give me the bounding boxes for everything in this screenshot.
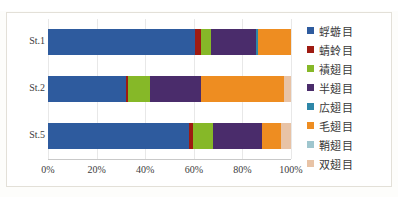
legend-item[interactable]: 双翅目	[307, 154, 387, 173]
bar-row[interactable]	[48, 123, 291, 149]
legend-label: 鞘翅目	[319, 137, 353, 153]
y-axis-label-st1: St.1	[9, 35, 45, 46]
legend-swatch-icon	[307, 27, 314, 34]
legend-swatch-icon	[307, 141, 314, 148]
bar-segment[interactable]	[284, 76, 291, 102]
x-tick-label-0: 0%	[28, 164, 68, 175]
x-axis-line	[48, 159, 291, 160]
bar-row[interactable]	[48, 29, 291, 55]
chart-screenshot: St.1St.2St.5 蜉蝣目蜻蛉目襀翅目半翅目広翅目毛翅目鞘翅目双翅目 0%…	[0, 0, 398, 197]
bar-segment[interactable]	[281, 123, 291, 149]
bar-segment[interactable]	[211, 29, 256, 55]
legend-label: 双翅目	[319, 156, 353, 172]
y-axis-label-st2: St.2	[9, 82, 45, 93]
legend-item[interactable]: 半翅目	[307, 78, 387, 97]
legend-item[interactable]: 鞘翅目	[307, 135, 387, 154]
legend-swatch-icon	[307, 122, 314, 129]
bar-segment[interactable]	[193, 123, 214, 149]
legend-swatch-icon	[307, 65, 314, 72]
bar-segment[interactable]	[48, 76, 126, 102]
legend-swatch-icon	[307, 84, 314, 91]
x-tick-label-100: 100%	[271, 164, 311, 175]
bar-segment[interactable]	[258, 29, 291, 55]
cut-off-text-strip	[0, 0, 398, 11]
x-tick-label-40: 40%	[125, 164, 165, 175]
bar-segment[interactable]	[213, 123, 262, 149]
bar-segment[interactable]	[48, 123, 189, 149]
legend-label: 広翅目	[319, 99, 353, 115]
legend-label: 蜻蛉目	[319, 42, 353, 58]
bar-row[interactable]	[48, 76, 291, 102]
chart-legend: 蜉蝣目蜻蛉目襀翅目半翅目広翅目毛翅目鞘翅目双翅目	[307, 21, 387, 173]
legend-item[interactable]: 毛翅目	[307, 116, 387, 135]
legend-item[interactable]: 蜉蝣目	[307, 21, 387, 40]
legend-label: 蜉蝣目	[319, 23, 353, 39]
x-tick-label-80: 80%	[222, 164, 262, 175]
x-tick-label-60: 60%	[174, 164, 214, 175]
y-axis-category-labels: St.1St.2St.5	[7, 19, 45, 159]
legend-item[interactable]: 襀翅目	[307, 59, 387, 78]
chart-frame: St.1St.2St.5 蜉蝣目蜻蛉目襀翅目半翅目広翅目毛翅目鞘翅目双翅目 0%…	[6, 12, 392, 187]
legend-item[interactable]: 広翅目	[307, 97, 387, 116]
legend-label: 半翅目	[319, 80, 353, 96]
plot-area	[48, 19, 291, 159]
gridline-100	[291, 19, 292, 159]
y-axis-label-st5: St.5	[9, 129, 45, 140]
legend-label: 襀翅目	[319, 61, 353, 77]
bar-segment[interactable]	[150, 76, 201, 102]
legend-swatch-icon	[307, 103, 314, 110]
bar-segment[interactable]	[48, 29, 195, 55]
legend-label: 毛翅目	[319, 118, 353, 134]
legend-item[interactable]: 蜻蛉目	[307, 40, 387, 59]
bar-segment[interactable]	[262, 123, 281, 149]
x-tick-label-20: 20%	[77, 164, 117, 175]
bar-segment[interactable]	[201, 29, 211, 55]
bar-segment[interactable]	[128, 76, 150, 102]
bar-segment[interactable]	[201, 76, 284, 102]
legend-swatch-icon	[307, 46, 314, 53]
